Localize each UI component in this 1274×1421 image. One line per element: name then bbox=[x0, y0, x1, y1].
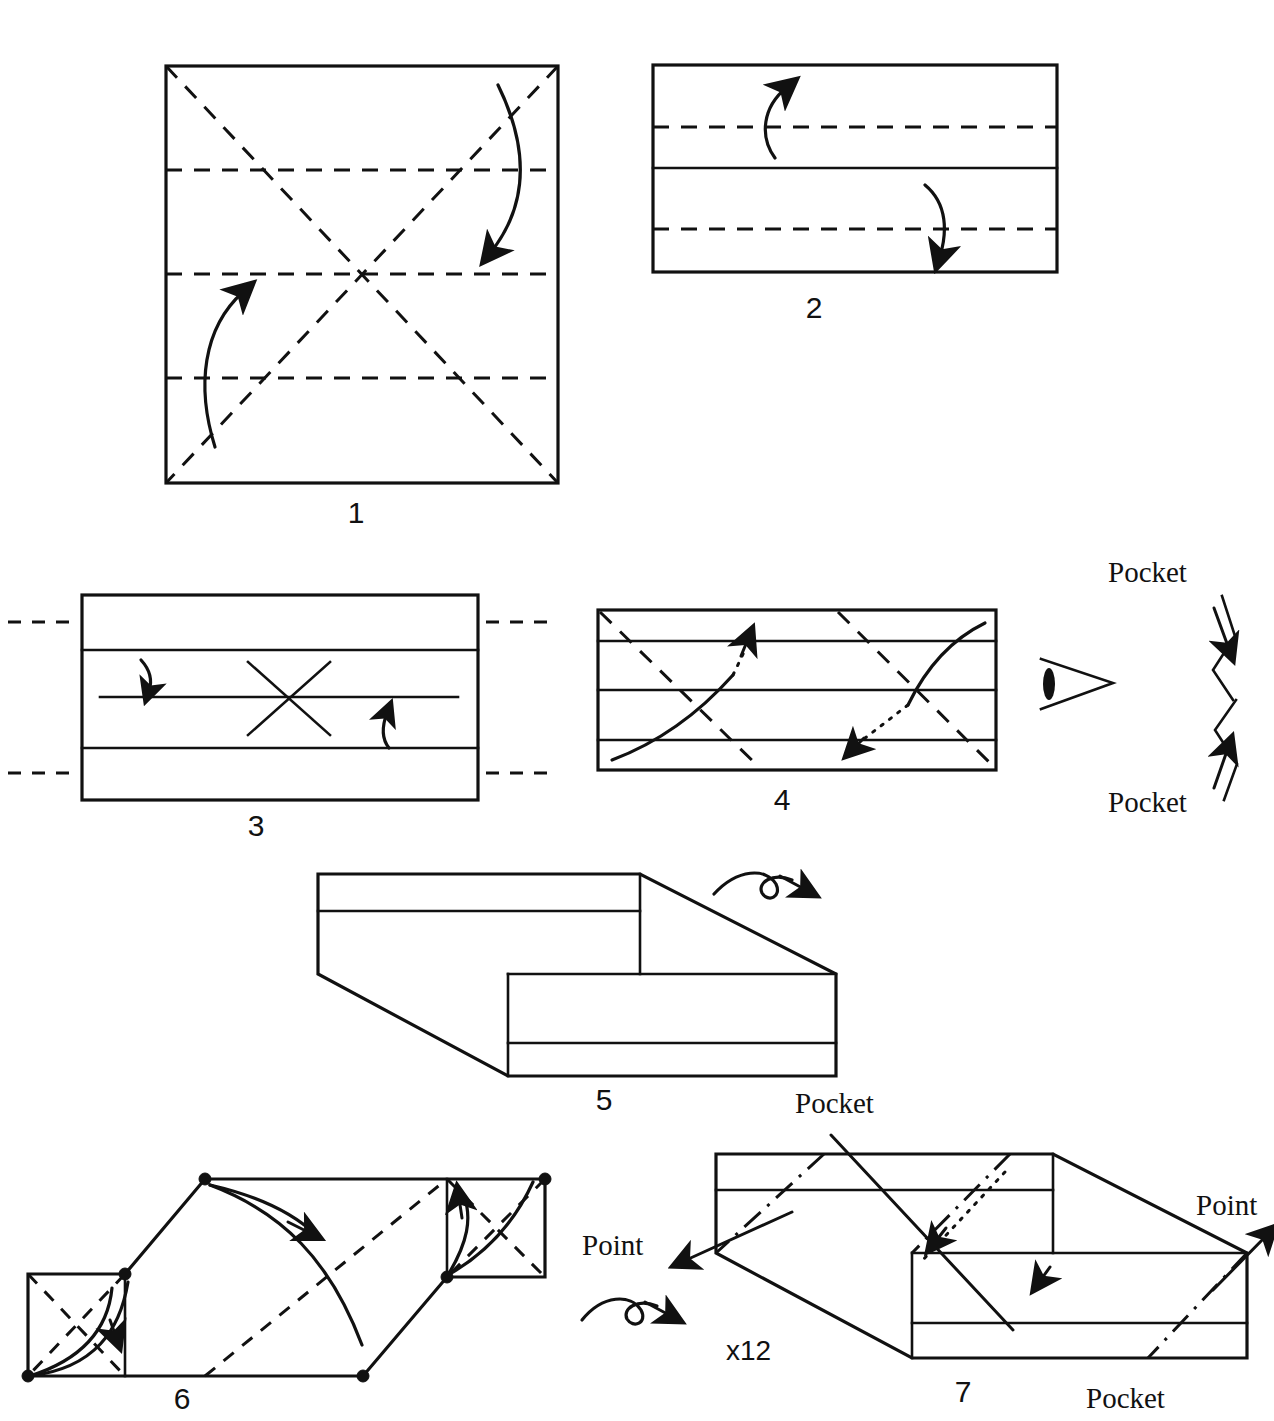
step-7-point-arrow-right bbox=[1213, 1235, 1267, 1290]
step-4-dotted-right bbox=[860, 705, 908, 742]
step-7-repeat-count-label: x12 bbox=[726, 1335, 771, 1366]
step-7-number: 7 bbox=[955, 1375, 972, 1408]
step-3-arrow-down bbox=[141, 660, 151, 691]
step-2-figure: 2 bbox=[653, 65, 1057, 324]
detail-pocket-bottom-label: Pocket bbox=[1108, 786, 1187, 818]
step-2-arrow-down bbox=[925, 185, 944, 256]
step-7-pocket-leader-top bbox=[831, 1135, 1013, 1330]
pocket-point-detail: Pocket Pocket bbox=[1041, 556, 1237, 818]
step-7-point-arrow-left bbox=[684, 1212, 792, 1261]
step-6-vertex-dot-1 bbox=[22, 1370, 34, 1382]
step-6-dash-center-a bbox=[205, 1179, 447, 1376]
step-5-turn-over-arrowhead bbox=[780, 876, 806, 890]
step-6-number: 6 bbox=[174, 1382, 191, 1415]
step-2-arrow-up bbox=[765, 88, 786, 158]
step-1-number: 1 bbox=[348, 496, 365, 529]
step-6-vertex-dot-3 bbox=[199, 1173, 211, 1185]
step-5-number: 5 bbox=[596, 1083, 613, 1116]
step-4-number: 4 bbox=[774, 783, 791, 816]
step-2-number: 2 bbox=[806, 291, 823, 324]
step-6-dash-right-b bbox=[447, 1179, 545, 1277]
origami-diagram-page: 1 2 3 bbox=[0, 0, 1274, 1421]
step-6-arrow-right-head bbox=[459, 1198, 462, 1218]
step-7-turn-over-arrowhead bbox=[645, 1302, 671, 1316]
step-7-pocket-arrow-bottom bbox=[1040, 1267, 1050, 1281]
step-4-curve-left bbox=[612, 675, 733, 760]
step-6-figure: 6 bbox=[22, 1173, 551, 1415]
detail-pocket-top-label: Pocket bbox=[1108, 556, 1187, 588]
step-6-dash-right-a bbox=[447, 1179, 545, 1277]
step-6-vertex-dot-5 bbox=[441, 1271, 453, 1283]
step-1-figure: 1 bbox=[166, 66, 558, 529]
step-4-figure: 4 bbox=[598, 610, 996, 816]
pocket-arrow-into-bottom bbox=[1214, 748, 1228, 788]
step-7-pocket-bottom-label: Pocket bbox=[1086, 1382, 1165, 1414]
step-6-vertex-dot-2 bbox=[119, 1268, 131, 1280]
origami-diagram-canvas: 1 2 3 bbox=[0, 0, 1274, 1421]
step-3-number: 3 bbox=[248, 809, 265, 842]
step-3-arrow-up bbox=[383, 713, 389, 748]
step-1-arrow-up-left bbox=[205, 292, 243, 447]
step-6-arrow-right-outer bbox=[448, 1182, 533, 1275]
step-6-vertex-dot-6 bbox=[357, 1370, 369, 1382]
step-7-pocket-dotted-top bbox=[921, 1172, 1005, 1262]
step-7-point-left-label: Point bbox=[582, 1229, 643, 1261]
step-7-pocket-top-label: Pocket bbox=[795, 1087, 874, 1119]
step-3-figure: 3 bbox=[8, 595, 552, 842]
step-5-figure: 5 bbox=[318, 873, 836, 1116]
step-7-unit-outline bbox=[716, 1154, 1247, 1358]
step-6-vertex-dot-4 bbox=[539, 1173, 551, 1185]
step-7-point-right-label: Point bbox=[1196, 1189, 1257, 1221]
point-wedge-mark bbox=[1043, 668, 1055, 700]
step-7-figure: Pocket Pocket Point Point x12 7 bbox=[582, 1087, 1267, 1414]
